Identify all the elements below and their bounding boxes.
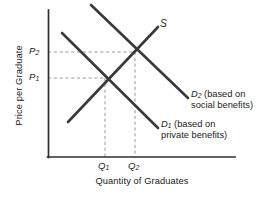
demand-curve-d1-symbol: D <box>161 119 168 129</box>
quantity-tick-q1-subscript: 1 <box>105 164 109 171</box>
y-axis-title: Price per Graduate <box>14 25 25 145</box>
demand-curve-d2-note-line2: social benefits) <box>191 100 253 110</box>
demand-curve-d2-symbol: D <box>191 89 198 99</box>
demand-curve-d2-note-line1: (based on <box>201 89 245 99</box>
x-axis-title: Quantity of Graduates <box>48 176 236 187</box>
quantity-tick-q2-subscript: 2 <box>135 164 139 171</box>
demand-curve-d1-note-line1: (based on <box>171 119 215 129</box>
supply-curve-label: S <box>160 18 167 30</box>
supply-curve-s <box>68 27 158 122</box>
curves <box>62 5 188 128</box>
price-tick-p2: P2 <box>29 45 39 57</box>
price-tick-p1-subscript: 1 <box>35 75 39 82</box>
guide-lines <box>48 52 135 157</box>
price-tick-p2-subscript: 2 <box>35 49 39 56</box>
economics-supply-demand-chart: Price per Graduate Quantity of Graduates… <box>0 0 275 197</box>
quantity-tick-q1: Q1 <box>98 160 109 172</box>
demand-curve-d1-label: D1 (based on private benefits) <box>161 119 227 141</box>
price-tick-p1: P1 <box>29 71 39 83</box>
quantity-tick-q2: Q2 <box>128 160 139 172</box>
demand-curve-d1-note-line2: private benefits) <box>161 130 227 140</box>
demand-curve-d2-label: D2 (based on social benefits) <box>191 89 253 111</box>
